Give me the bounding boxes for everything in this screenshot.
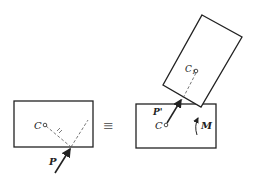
moment-m-arrow [196, 118, 198, 135]
tilted-body-rectangle [163, 15, 242, 107]
right-panel: C P' M C1 [136, 15, 242, 148]
right-center-label: C [155, 120, 163, 131]
left-body-rectangle [14, 101, 93, 147]
force-p-label: P [48, 156, 57, 167]
force-p-arrow [55, 149, 70, 173]
left-force-line-of-action [71, 120, 88, 147]
left-distance-tick-marks [57, 128, 62, 133]
right-center-point [164, 123, 168, 127]
equivalence-symbol: ≡ [103, 118, 114, 133]
force-translation-diagram: C P ≡ C P' M C1 [0, 0, 253, 183]
left-panel: C P [14, 101, 93, 173]
left-center-label: C [34, 120, 42, 131]
moment-m-label: M [200, 120, 213, 131]
force-p-prime-label: P' [152, 107, 163, 117]
